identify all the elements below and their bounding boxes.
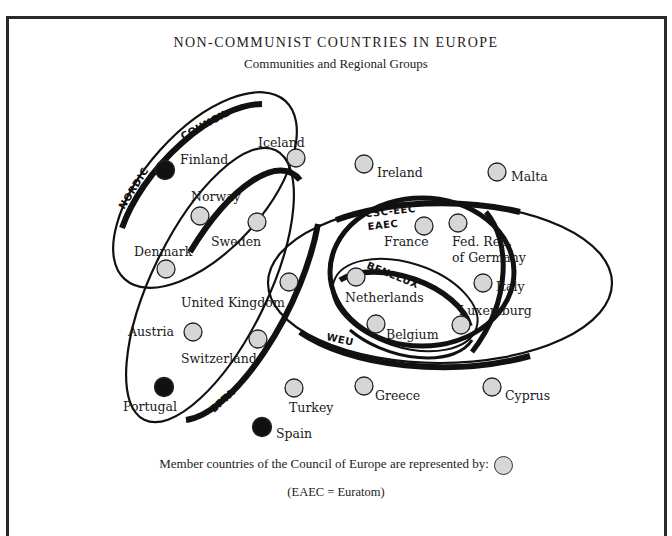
label-germany-line2: of Germany bbox=[452, 250, 527, 265]
label-united-kingdom: United Kingdom bbox=[181, 295, 285, 310]
label-portugal: Portugal bbox=[123, 399, 177, 414]
marker-norway bbox=[191, 207, 209, 225]
label-turkey: Turkey bbox=[289, 400, 334, 415]
marker-spain bbox=[253, 418, 272, 437]
marker-france bbox=[415, 217, 433, 235]
marker-ireland bbox=[355, 155, 373, 173]
label-spain: Spain bbox=[276, 426, 312, 441]
label-luxemburg: Luxemburg bbox=[459, 303, 532, 318]
group-label-ecsc-eec: ECSC-EEC bbox=[357, 203, 416, 220]
marker-iceland bbox=[287, 149, 305, 167]
label-norway: Norway bbox=[191, 189, 242, 204]
member-marker-icon bbox=[494, 456, 513, 475]
marker-switzerland bbox=[249, 330, 267, 348]
marker-cyprus bbox=[483, 378, 501, 396]
marker-malta bbox=[488, 163, 506, 181]
legend-note: (EAEC = Euratom) bbox=[0, 485, 672, 500]
legend: Member countries of the Council of Europ… bbox=[0, 456, 672, 475]
group-label-efta: EFTA bbox=[208, 387, 237, 415]
marker-italy bbox=[474, 274, 492, 292]
label-iceland: Iceland bbox=[258, 135, 305, 150]
marker-sweden bbox=[248, 213, 266, 231]
label-cyprus: Cyprus bbox=[505, 388, 550, 403]
marker-turkey bbox=[285, 379, 303, 397]
marker-portugal bbox=[155, 378, 174, 397]
marker-belgium bbox=[367, 315, 385, 333]
label-france: France bbox=[384, 234, 429, 249]
label-finland: Finland bbox=[180, 152, 228, 167]
label-denmark: Denmark bbox=[134, 244, 193, 259]
label-netherlands: Netherlands bbox=[345, 290, 424, 305]
label-malta: Malta bbox=[511, 169, 548, 184]
marker-luxemburg bbox=[452, 316, 470, 334]
marker-germany bbox=[449, 214, 467, 232]
legend-text: Member countries of the Council of Europ… bbox=[159, 456, 489, 471]
label-switzerland: Switzerland bbox=[181, 351, 257, 366]
label-germany-line1: Fed. Rep. bbox=[452, 234, 512, 249]
label-belgium: Belgium bbox=[386, 327, 439, 342]
marker-united-kingdom bbox=[280, 273, 298, 291]
marker-denmark bbox=[157, 260, 175, 278]
marker-finland bbox=[156, 161, 175, 180]
marker-netherlands bbox=[347, 268, 365, 286]
label-greece: Greece bbox=[375, 388, 420, 403]
marker-austria bbox=[184, 323, 202, 341]
group-label-eaec: EAEC bbox=[367, 218, 399, 232]
label-austria: Austria bbox=[127, 324, 174, 339]
label-sweden: Sweden bbox=[211, 234, 261, 249]
marker-greece bbox=[355, 377, 373, 395]
label-ireland: Ireland bbox=[377, 165, 423, 180]
label-italy: Italy bbox=[496, 279, 525, 294]
